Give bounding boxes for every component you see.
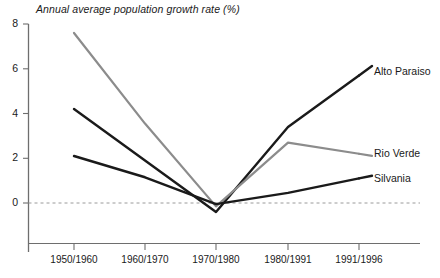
series-leader-silvania: [359, 176, 372, 179]
chart-plot-area: [0, 0, 440, 278]
y-axis-label-8: 8: [4, 17, 18, 29]
series-leader-alto-paraiso: [359, 66, 372, 75]
series-label-silvania: Silvania: [374, 172, 411, 184]
series-label-rio-verde: Rio Verde: [374, 147, 420, 159]
x-axis-label-1960-1970: 1960/1970: [105, 254, 185, 265]
x-axis-label-1980-1991: 1980/1991: [248, 254, 328, 265]
x-axis-label-1970-1980: 1970/1980: [176, 254, 256, 265]
series-layer: [74, 33, 372, 212]
series-line-alto-paraiso: [74, 75, 359, 211]
chart-page: Annual average population growth rate (%…: [0, 0, 440, 278]
series-line-silvania: [74, 156, 359, 204]
x-axis-label-1991-1996: 1991/1996: [319, 254, 399, 265]
series-leader-rio-verde: [359, 154, 372, 156]
y-axis-label-2: 2: [4, 151, 18, 163]
x-axis-label-1950-1960: 1950/1960: [34, 254, 114, 265]
y-axis-label-0: 0: [4, 196, 18, 208]
series-label-alto-paraiso: Alto Paraiso: [374, 65, 431, 77]
series-line-rio-verde: [74, 33, 359, 206]
y-axis-label-6: 6: [4, 62, 18, 74]
y-axis-label-4: 4: [4, 107, 18, 119]
